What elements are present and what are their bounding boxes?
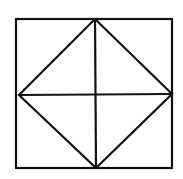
horizontal-midline: [19, 94, 172, 95]
diagram-canvas: [0, 0, 183, 179]
